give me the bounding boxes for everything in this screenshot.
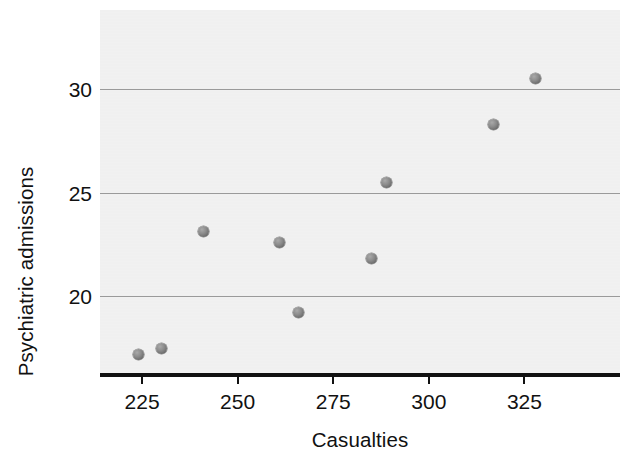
data-point (198, 226, 209, 237)
data-point (156, 343, 167, 354)
data-point (274, 237, 285, 248)
x-tick-label-225: 225 (125, 390, 160, 414)
y-tick-label-20: 20 (52, 286, 92, 307)
data-point (133, 349, 144, 360)
x-tick-label-300: 300 (411, 390, 446, 414)
x-tick-label-325: 325 (507, 390, 542, 414)
y-axis-label-text: Psychiatric admissions (14, 167, 38, 377)
y-axis-label: Psychiatric admissions (0, 0, 52, 467)
gridline-y-25 (100, 193, 620, 194)
gridline-y-20 (100, 296, 620, 297)
x-tick-label-275: 275 (316, 390, 351, 414)
y-tick-label-30: 30 (52, 79, 92, 100)
data-point (530, 73, 541, 84)
x-tick-mark-225 (141, 373, 143, 384)
data-point (381, 177, 392, 188)
data-point (488, 119, 499, 130)
scatter-plot-figure: Psychiatric admissions 202530 Casualties… (0, 0, 625, 467)
x-tick-mark-300 (428, 373, 430, 384)
plot-panel (100, 10, 620, 373)
data-point (293, 307, 304, 318)
y-axis-tick-labels: 202530 (52, 0, 92, 467)
x-tick-mark-275 (332, 373, 334, 384)
x-tick-label-250: 250 (220, 390, 255, 414)
gridline-y-30 (100, 89, 620, 90)
x-axis-line (100, 373, 620, 377)
x-axis-label: Casualties (100, 428, 620, 452)
x-tick-mark-325 (523, 373, 525, 384)
data-point (366, 253, 377, 264)
y-tick-label-25: 25 (52, 183, 92, 204)
x-tick-mark-250 (237, 373, 239, 384)
